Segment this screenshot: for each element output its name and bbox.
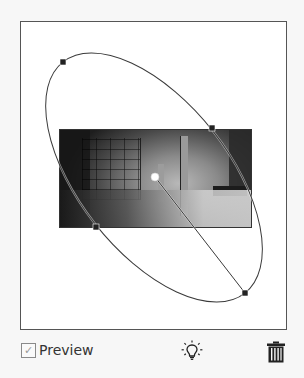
- trash-icon[interactable]: [266, 341, 286, 363]
- lightbulb-icon[interactable]: [181, 340, 203, 362]
- check-icon: ✓: [24, 345, 33, 356]
- photo-right-wall: [229, 130, 251, 190]
- photo-floor: [60, 190, 251, 227]
- preview-canvas[interactable]: [20, 21, 287, 330]
- preview-footer: ✓ Preview: [0, 336, 304, 368]
- preview-checkbox[interactable]: ✓: [21, 343, 36, 358]
- preview-label[interactable]: Preview: [39, 342, 94, 358]
- photo-thumbnail: [59, 129, 252, 228]
